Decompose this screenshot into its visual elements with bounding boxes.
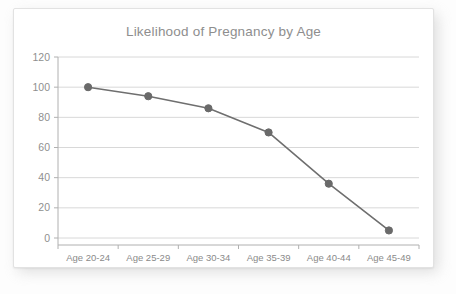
data-point-marker [145,93,152,100]
chart-page: Likelihood of Pregnancy by Age 020406080… [0,0,456,294]
x-tick-label: Age 35-39 [247,252,291,263]
y-tick-label: 120 [32,51,50,63]
plot-area: 020406080100120 Age 20-24Age 25-29Age 30… [14,9,433,267]
data-point-marker [325,180,332,187]
x-tick-labels: Age 20-24Age 25-29Age 30-34Age 35-39Age … [66,252,411,263]
y-tick-label: 20 [38,201,50,213]
line-chart-svg: 020406080100120 Age 20-24Age 25-29Age 30… [14,9,433,267]
y-tick-label: 80 [38,111,50,123]
data-point-marker [385,227,392,234]
y-tick-label: 40 [38,171,50,183]
x-axis [58,245,419,249]
data-series-line [88,87,389,230]
chart-card: Likelihood of Pregnancy by Age 020406080… [13,8,434,268]
x-tick-label: Age 25-29 [126,252,170,263]
y-tick-label: 100 [32,81,50,93]
x-tick-label: Age 45-49 [367,252,411,263]
x-tick-label: Age 20-24 [66,252,110,263]
data-point-marker [205,105,212,112]
data-point-marker [84,84,91,91]
y-tick-label: 0 [44,232,50,244]
x-tick-label: Age 40-44 [307,252,351,263]
y-tick-label: 60 [38,141,50,153]
y-axis [54,57,58,245]
x-tick-label: Age 30-34 [186,252,230,263]
y-tick-labels: 020406080100120 [32,51,50,244]
data-point-marker [265,129,272,136]
data-markers [84,84,392,234]
data-line [88,87,389,230]
